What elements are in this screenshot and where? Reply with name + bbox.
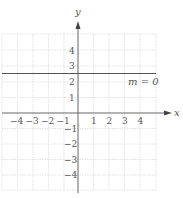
svg-text:2: 2: [69, 77, 75, 87]
slope-label: m = 0: [128, 76, 159, 87]
svg-text:1: 1: [69, 93, 75, 103]
y-axis-arrow-icon: [76, 21, 81, 29]
x-axis: [2, 111, 172, 116]
svg-text:−4: −4: [10, 116, 24, 126]
svg-text:−3: −3: [64, 155, 78, 165]
svg-text:3: 3: [122, 116, 128, 126]
y-axis-label: y: [74, 6, 81, 17]
x-axis-label: x: [174, 107, 180, 118]
svg-text:−2: −2: [41, 116, 54, 126]
svg-text:−2: −2: [64, 139, 77, 149]
svg-text:3: 3: [69, 61, 75, 71]
coordinate-plane: y x m = 0 −4 −3 −2 −1 1 2 3 4 4 3 2 1 −1…: [0, 0, 183, 198]
svg-text:4: 4: [138, 116, 144, 126]
grid: [2, 34, 156, 190]
svg-text:−1: −1: [64, 124, 77, 134]
svg-text:2: 2: [107, 116, 113, 126]
svg-text:4: 4: [69, 46, 75, 56]
x-axis-arrow-icon: [164, 111, 172, 116]
svg-text:−4: −4: [64, 170, 78, 180]
svg-text:−3: −3: [26, 116, 40, 126]
svg-text:1: 1: [91, 116, 97, 126]
y-axis: [76, 21, 81, 193]
